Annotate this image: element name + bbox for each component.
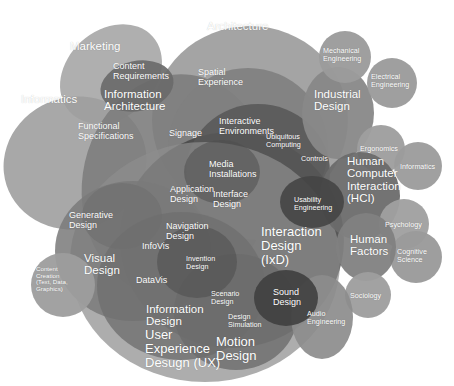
blob-content-creation (31, 253, 95, 317)
blob-generative-design (82, 183, 162, 249)
blob-sound-design (254, 270, 318, 326)
blob-usability-engineering (280, 176, 344, 228)
blob-layer (0, 0, 454, 386)
blob-invention-design (157, 226, 237, 298)
blob-media-installations (184, 140, 260, 204)
blob-human-factors (336, 213, 396, 281)
blob-mechanical-engineering (319, 31, 371, 83)
blob-electrical-engineering (367, 58, 417, 108)
blob-cognitive-science (390, 231, 442, 283)
blob-informatics-right (394, 142, 442, 190)
diagram-canvas: MarketingInformaticsArchitectureContent … (0, 0, 454, 386)
